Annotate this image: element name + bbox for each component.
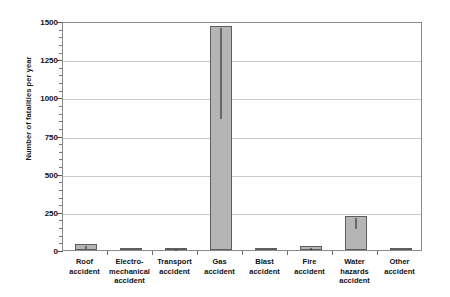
bar-series — [63, 23, 421, 250]
x-category-label: Gasaccident — [197, 257, 242, 276]
x-axis-category-labels: RoofaccidentElectro-mechanicalaccidentTr… — [62, 257, 422, 297]
y-tick-label: 1250 — [0, 56, 58, 65]
x-category-label-line: Roof — [62, 257, 107, 267]
bar-group[interactable] — [108, 23, 153, 250]
error-bar — [310, 248, 311, 250]
x-category-label-line: mechanical — [107, 267, 152, 277]
y-tick-label: 1500 — [0, 18, 58, 27]
x-category-label-line: Other — [377, 257, 422, 267]
bar[interactable] — [390, 248, 412, 250]
x-category-label: Blastaccident — [242, 257, 287, 276]
plot-area — [62, 22, 422, 251]
error-bar — [355, 218, 356, 229]
bar-group[interactable] — [198, 23, 243, 250]
x-category-label-line: accident — [242, 267, 287, 277]
x-category-label-line: Fire — [287, 257, 332, 267]
x-category-label-line: Blast — [242, 257, 287, 267]
y-tick-label: 0 — [0, 247, 58, 256]
bar[interactable] — [120, 248, 142, 250]
bar-group[interactable] — [378, 23, 423, 250]
x-category-label-line: Transport — [152, 257, 197, 267]
bar-group[interactable] — [333, 23, 378, 250]
x-category-label-line: hazards — [332, 267, 377, 277]
x-category-label-line: Electro- — [107, 257, 152, 267]
x-category-label-line: accident — [152, 267, 197, 277]
x-tick-mark — [287, 251, 288, 255]
x-category-label: Electro-mechanicalaccident — [107, 257, 152, 286]
x-category-label-line: accident — [62, 267, 107, 277]
error-bar — [85, 246, 86, 249]
bar-group[interactable] — [288, 23, 333, 250]
x-category-label: Waterhazardsaccident — [332, 257, 377, 286]
y-tick-label: 750 — [0, 132, 58, 141]
x-tick-mark — [242, 251, 243, 255]
x-tick-mark — [377, 251, 378, 255]
bar-group[interactable] — [243, 23, 288, 250]
y-tick-label: 1000 — [0, 94, 58, 103]
x-category-label-line: accident — [107, 276, 152, 286]
y-axis-title: Number of fatalities per year — [24, 29, 33, 189]
x-category-label: Fireaccident — [287, 257, 332, 276]
x-tick-mark — [107, 251, 108, 255]
error-bar — [175, 250, 176, 251]
x-category-label: Roofaccident — [62, 257, 107, 276]
x-tick-mark — [197, 251, 198, 255]
x-category-label-line: accident — [377, 267, 422, 277]
x-category-label-line: Gas — [197, 257, 242, 267]
error-bar — [220, 28, 221, 120]
bar[interactable] — [255, 248, 277, 250]
chart-figure: Number of fatalities per year 0250500750… — [0, 0, 450, 297]
x-category-label-line: Water — [332, 257, 377, 267]
x-category-label: Transportaccident — [152, 257, 197, 276]
y-tick-label: 500 — [0, 170, 58, 179]
x-tick-mark — [332, 251, 333, 255]
y-tick-label: 250 — [0, 208, 58, 217]
bar-group[interactable] — [63, 23, 108, 250]
x-category-label: Otheraccident — [377, 257, 422, 276]
bar-group[interactable] — [153, 23, 198, 250]
x-category-label-line: accident — [332, 276, 377, 286]
x-category-label-line: accident — [287, 267, 332, 277]
x-tick-mark — [152, 251, 153, 255]
x-category-label-line: accident — [197, 267, 242, 277]
